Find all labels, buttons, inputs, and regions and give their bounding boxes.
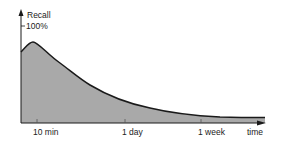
x-axis-label: time <box>247 128 263 137</box>
y-max-label: 100% <box>26 22 48 31</box>
x-tick-label-1day: 1 day <box>122 128 143 137</box>
y-axis-arrow-icon <box>19 9 24 16</box>
recall-area <box>21 42 265 123</box>
x-tick-label-1week: 1 week <box>198 128 225 137</box>
y-axis-label: Recall <box>27 11 51 20</box>
x-tick-label-10min: 10 min <box>33 128 59 137</box>
